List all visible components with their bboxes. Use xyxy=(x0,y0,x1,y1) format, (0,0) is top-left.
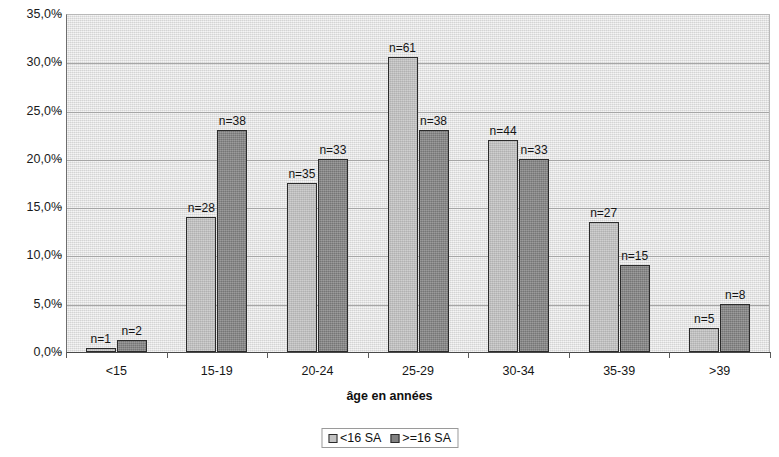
y-axis-tick-label: 20,0% xyxy=(4,153,62,166)
x-axis-tick-label: 15-19 xyxy=(201,364,233,378)
bar xyxy=(620,265,650,352)
bar-value-label: n=44 xyxy=(480,125,526,137)
legend-item-label: >=16 SA xyxy=(402,432,451,445)
chart-legend: <16 SA>=16 SA xyxy=(321,428,458,448)
bar xyxy=(117,340,147,352)
y-axis-tick-mark xyxy=(57,62,62,63)
y-axis-tick-label: 35,0% xyxy=(4,8,62,21)
y-axis-tick-mark xyxy=(57,304,62,305)
bar xyxy=(720,304,750,352)
x-axis-tick-mark xyxy=(468,352,469,358)
legend-item: >=16 SA xyxy=(390,432,451,445)
y-axis-tick-label: 0,0% xyxy=(4,346,62,359)
bar-value-label: n=15 xyxy=(612,250,658,262)
y-axis-tick-mark xyxy=(57,159,62,160)
y-axis-tick-mark xyxy=(57,111,62,112)
bar xyxy=(488,140,518,352)
y-axis-tick-label: 30,0% xyxy=(4,56,62,69)
y-axis-tick-mark xyxy=(57,352,62,353)
x-axis-tick-label: <15 xyxy=(106,364,127,378)
bar xyxy=(388,57,418,352)
bar-value-label: n=33 xyxy=(310,144,356,156)
bar-value-label: n=2 xyxy=(109,325,155,337)
x-axis-tick-mark xyxy=(770,352,771,358)
x-axis-tick-mark xyxy=(66,352,67,358)
bar xyxy=(217,130,247,352)
legend-item-label: <16 SA xyxy=(340,432,381,445)
bar-value-label: n=33 xyxy=(511,144,557,156)
x-axis-tick-mark xyxy=(167,352,168,358)
x-axis-tick-mark xyxy=(368,352,369,358)
bar xyxy=(287,183,317,352)
bar xyxy=(419,130,449,352)
x-axis-tick-mark xyxy=(669,352,670,358)
light-gray-square-icon xyxy=(328,434,337,443)
bar-value-label: n=38 xyxy=(411,115,457,127)
x-axis-tick-label: >39 xyxy=(709,364,730,378)
x-axis-tick-label: 30-34 xyxy=(503,364,535,378)
x-axis-tick-label: 25-29 xyxy=(402,364,434,378)
y-axis-tick-mark xyxy=(57,207,62,208)
bars-layer: n=1n=2n=28n=38n=35n=33n=61n=38n=44n=33n=… xyxy=(66,14,770,352)
x-axis-title: âge en années xyxy=(0,389,779,403)
y-axis-tick-mark xyxy=(57,14,62,15)
y-axis-tick-label: 5,0% xyxy=(4,297,62,310)
x-axis-tick-mark xyxy=(569,352,570,358)
y-axis-tick-label: 15,0% xyxy=(4,201,62,214)
y-axis-tick-label: 10,0% xyxy=(4,249,62,262)
bar xyxy=(689,328,719,352)
bar xyxy=(318,159,348,352)
bar-value-label: n=8 xyxy=(712,289,758,301)
legend-item: <16 SA xyxy=(328,432,381,445)
bar xyxy=(589,222,619,352)
bar-value-label: n=38 xyxy=(209,115,255,127)
bar-value-label: n=27 xyxy=(581,207,627,219)
y-axis-tick-mark xyxy=(57,255,62,256)
x-axis-tick-label: 20-24 xyxy=(301,364,333,378)
bar-chart: 0,0%5,0%10,0%15,0%20,0%25,0%30,0%35,0% n… xyxy=(0,0,779,457)
bar xyxy=(186,217,216,352)
bar xyxy=(519,159,549,352)
x-axis-line xyxy=(66,352,770,353)
bar xyxy=(86,348,116,352)
y-axis-tick-label: 25,0% xyxy=(4,104,62,117)
bar-value-label: n=61 xyxy=(380,42,426,54)
x-axis-tick-mark xyxy=(267,352,268,358)
x-axis-tick-label: 35-39 xyxy=(603,364,635,378)
dark-gray-square-icon xyxy=(390,434,399,443)
